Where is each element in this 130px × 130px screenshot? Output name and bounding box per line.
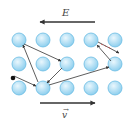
lattice-atom xyxy=(12,57,26,71)
lattice-atom xyxy=(60,81,74,95)
lattice-atom xyxy=(12,33,26,47)
lattice-atom xyxy=(12,81,26,95)
lattice-atom xyxy=(108,33,122,47)
lattice-atom xyxy=(60,33,74,47)
lattice-atom xyxy=(108,57,122,71)
electron-path-segment xyxy=(47,68,62,83)
lattice-atom xyxy=(84,33,98,47)
electric-field-label: E xyxy=(62,7,69,18)
vector-mark: → xyxy=(63,106,69,114)
electron-path-segment xyxy=(49,67,109,85)
lattice-atom xyxy=(84,81,98,95)
lattice-atom xyxy=(60,57,74,71)
drift-velocity-label: → v xyxy=(62,110,67,120)
lattice-atom xyxy=(36,33,50,47)
lattice-atom xyxy=(36,81,50,95)
lattice-atom xyxy=(36,57,50,71)
atom-lattice xyxy=(12,33,122,95)
electron-start-dot xyxy=(11,76,16,81)
lattice-atom xyxy=(108,81,122,95)
lattice-atom xyxy=(84,57,98,71)
